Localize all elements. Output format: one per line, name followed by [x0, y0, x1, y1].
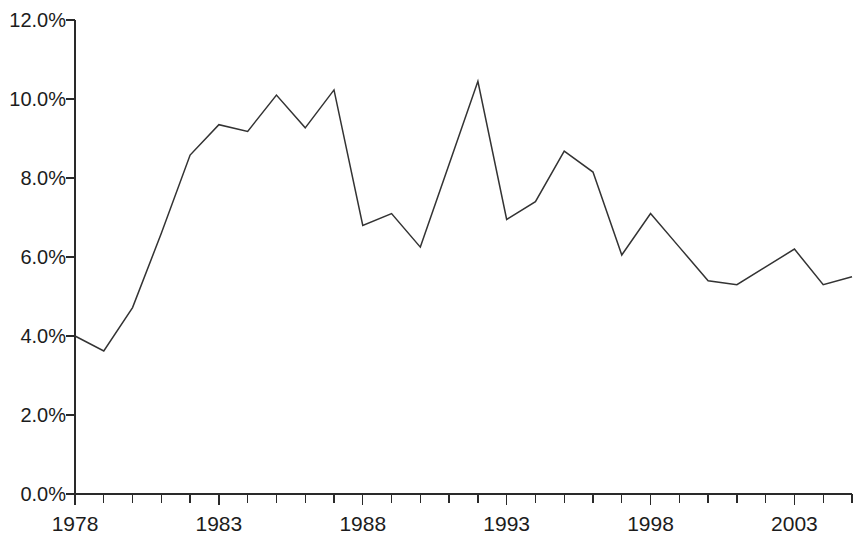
x-tick-label: 1998	[627, 513, 674, 534]
x-tick-label: 1983	[196, 513, 243, 534]
x-tick-label: 1988	[339, 513, 386, 534]
x-tick-label: 1993	[483, 513, 530, 534]
line-chart: 12.0%10.0%8.0%6.0%4.0%2.0%0.0% 197819831…	[0, 0, 858, 546]
x-tick-label: 1978	[52, 513, 99, 534]
x-axis-tick-labels: 197819831988199319982003	[0, 0, 858, 546]
x-tick-label: 2003	[771, 513, 818, 534]
